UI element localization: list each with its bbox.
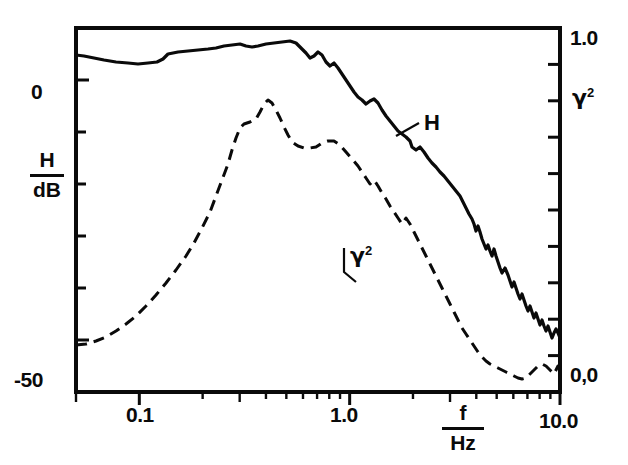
x-axis-tick-label-1-0: 1.0 <box>330 404 358 425</box>
left-axis-title-denominator: dB <box>30 178 64 202</box>
fraction-bar-icon <box>30 174 64 177</box>
curve-coherence-gamma-squared <box>76 100 560 379</box>
left-axis-tick-label-minus50: -50 <box>14 369 43 390</box>
left-axis-title: H dB <box>30 149 64 201</box>
curve-annotation-gamma-exponent: 2 <box>365 243 372 258</box>
plot-frame <box>76 28 560 392</box>
h-label-leader-line <box>396 123 419 136</box>
right-axis-tick-label-0-0: 0,0 <box>570 364 598 385</box>
right-axis-tick-label-1-0: 1.0 <box>570 27 598 48</box>
curve-annotation-gamma-squared: γ2 <box>350 244 372 267</box>
left-axis-title-numerator: H <box>30 149 64 173</box>
curve-annotation-h: H <box>424 112 440 134</box>
figure-container: 0 -50 H dB 1.0 0,0 γ2 0.1 1.0 10.0 f Hz … <box>0 0 628 465</box>
left-axis-tick-label-0: 0 <box>31 81 42 102</box>
right-axis-title-exponent: 2 <box>587 85 594 100</box>
plot-frame-border <box>76 28 560 392</box>
fraction-bar-icon <box>442 427 484 430</box>
x-axis-tick-label-10-0: 10.0 <box>539 410 578 431</box>
x-axis-tick-label-0-1: 0.1 <box>126 404 154 425</box>
x-axis-title-denominator: Hz <box>442 431 484 455</box>
curve-transfer-function-h <box>76 41 560 338</box>
right-axis-title: γ2 <box>572 86 594 109</box>
curve-annotation-gamma-base: γ <box>350 243 365 268</box>
chart-canvas <box>0 0 628 465</box>
x-axis-title: f Hz <box>442 402 484 454</box>
right-axis-title-gamma: γ <box>572 85 587 110</box>
x-axis-title-numerator: f <box>442 402 484 426</box>
